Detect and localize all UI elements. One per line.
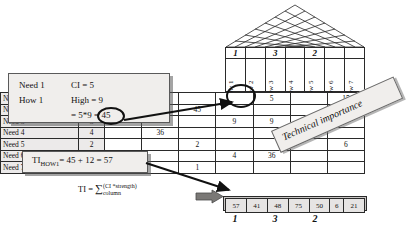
technical-importance-row: 57 41 48 75 50 6 21 xyxy=(223,196,367,211)
formula-sub: column xyxy=(103,190,137,197)
table-row: 57 41 48 75 50 6 21 xyxy=(226,199,365,213)
formula-sup: (CI *strength) xyxy=(103,183,137,190)
need-label-4: Need 4 xyxy=(1,127,79,139)
ti-rank-2 xyxy=(245,213,265,227)
cell-r1c3 xyxy=(179,93,216,105)
ti-value-2: 41 xyxy=(246,199,267,213)
ci-value-5: 2 xyxy=(79,139,105,151)
column-sum-text: TIHOW1= 45 + 12 = 57 xyxy=(32,155,113,167)
how-column-2: How 2 xyxy=(246,59,266,91)
how-column-1: How 1 xyxy=(226,59,246,91)
ti-prefix: TI xyxy=(32,155,41,165)
how-column-6: How 6 xyxy=(325,59,345,91)
column-sum-callout: TIHOW1= 45 + 12 = 57 xyxy=(22,151,148,173)
cell-r2c3: 45 xyxy=(179,104,216,116)
technical-importance-rank-row: 1 3 2 xyxy=(225,213,365,227)
grey-block-arrow xyxy=(196,190,223,203)
ti-value-7: 21 xyxy=(344,199,365,213)
cell-r5c7: 6 xyxy=(327,139,364,151)
cell-r3c4: 9 xyxy=(216,116,253,128)
technical-importance-formula: TI = ∑(CI *strength)column xyxy=(78,182,137,197)
ti-value-4: 75 xyxy=(288,199,309,213)
cell-r2c4 xyxy=(216,104,253,116)
ti-value-3: 48 xyxy=(267,199,288,213)
callout-product: = 5*9 = 45 xyxy=(71,110,110,120)
column-rank-3: 3 xyxy=(266,48,286,58)
cell-r3c3 xyxy=(179,116,216,128)
cell-r1c5: 5 xyxy=(253,93,290,105)
ti-rank-1: 1 xyxy=(225,213,245,227)
ti-rank-7 xyxy=(345,213,365,227)
need-label-5: Need 5 xyxy=(1,139,79,151)
how-column-4: How 4 xyxy=(286,59,306,91)
column-rank-5: 2 xyxy=(305,48,325,58)
callout-strength: High = 9 xyxy=(71,95,103,105)
ti-rank-4 xyxy=(285,213,305,227)
cell-r5c1 xyxy=(105,139,142,151)
cell-r4c1 xyxy=(105,127,142,139)
cell-r1c4 xyxy=(216,93,253,105)
cell-r6c5: 36 xyxy=(253,150,290,162)
cell-r7c3: 1 xyxy=(179,162,216,174)
cell-r5c4 xyxy=(216,139,253,151)
cell-r4c2: 36 xyxy=(142,127,179,139)
cell-r7c7 xyxy=(327,162,364,174)
how-label-row: How 1 How 2 How 3 How 4 How 5 How 6 How … xyxy=(225,59,365,92)
column-rank-6 xyxy=(325,48,345,58)
table-row: Need 5 2 2 6 xyxy=(1,139,365,151)
column-rank-7 xyxy=(345,48,364,58)
cell-r6c7 xyxy=(327,150,364,162)
formula-lhs: TI = xyxy=(78,184,93,194)
ti-rank-3: 3 xyxy=(265,213,285,227)
ti-equation: = 45 + 12 = 57 xyxy=(59,155,112,165)
correlation-roof xyxy=(225,4,365,48)
ti-value-6: 6 xyxy=(330,199,344,213)
callout-need-label: Need 1 xyxy=(19,80,45,90)
cell-r6c6 xyxy=(290,150,327,162)
column-rank-row: 1 3 2 xyxy=(225,47,365,59)
cell-r1c6 xyxy=(290,93,327,105)
diagram-canvas: 1 3 2 How 1 How 2 How 3 How 4 How 5 How … xyxy=(0,0,413,232)
column-rank-2 xyxy=(246,48,266,58)
cell-r7c5 xyxy=(253,162,290,174)
cell-r7c6 xyxy=(290,162,327,174)
cell-r5c3: 2 xyxy=(179,139,216,151)
cell-calculation-callout: Need 1 CI = 5 How 1 High = 9 = 5*9 = 45 xyxy=(8,73,170,123)
column-rank-1: 1 xyxy=(226,48,246,58)
ti-value-5: 50 xyxy=(309,199,330,213)
cell-r7c4 xyxy=(216,162,253,174)
ti-subscript: HOW1 xyxy=(41,160,60,167)
ti-rank-6 xyxy=(325,213,345,227)
cell-r6c4: 4 xyxy=(216,150,253,162)
ti-rank-5: 2 xyxy=(305,213,325,227)
column-rank-4 xyxy=(286,48,306,58)
cell-r4c4 xyxy=(216,127,253,139)
summation-icon: ∑ xyxy=(95,182,103,194)
cell-r6c3 xyxy=(179,150,216,162)
cell-r5c2 xyxy=(142,139,179,151)
how-column-3: How 3 xyxy=(266,59,286,91)
callout-ci-value: CI = 5 xyxy=(71,80,94,90)
ci-value-4: 4 xyxy=(79,127,105,139)
how-column-5: How 5 xyxy=(305,59,325,91)
cell-r2c5 xyxy=(253,104,290,116)
ti-value-1: 57 xyxy=(226,199,247,213)
cell-r4c3 xyxy=(179,127,216,139)
how-column-7: How 7 xyxy=(345,59,364,91)
callout-how-label: How 1 xyxy=(19,95,43,105)
